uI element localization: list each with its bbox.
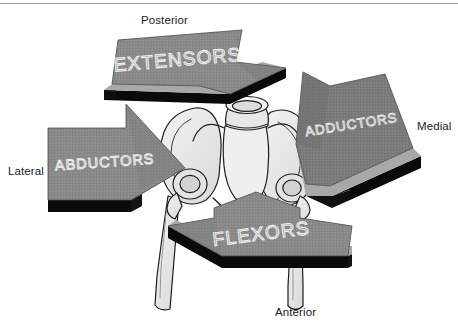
sacrum xyxy=(223,122,268,204)
arrow-adductors: ADDUCTORS xyxy=(296,72,421,208)
hip-muscle-direction-figure: EXTENSORS ABDUCTORS ADDUCTORS xyxy=(0,0,458,325)
orientation-label-lateral: Lateral xyxy=(8,165,44,177)
arrow-abductors: ABDUCTORS xyxy=(48,104,185,212)
flexors-arrow-edge-front xyxy=(222,256,348,268)
abductors-arrow-edge xyxy=(48,200,131,212)
figure-artwork: EXTENSORS ABDUCTORS ADDUCTORS xyxy=(0,0,458,325)
orientation-label-medial: Medial xyxy=(417,120,451,132)
orientation-label-anterior: Anterior xyxy=(275,306,316,318)
orientation-label-posterior: Posterior xyxy=(141,14,188,26)
arrow-extensors: EXTENSORS xyxy=(104,30,286,104)
